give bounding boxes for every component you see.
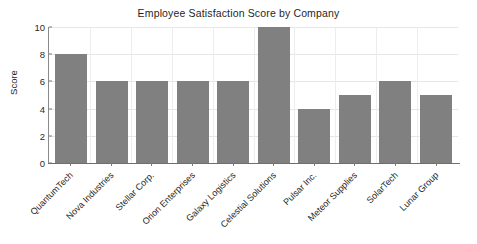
y-tick-label: 10 bbox=[34, 22, 49, 33]
bar[interactable] bbox=[55, 54, 87, 163]
x-axis-tick-labels: QuantumTechNova IndustriesStellar Corp.O… bbox=[48, 167, 458, 243]
bar-slot bbox=[213, 27, 254, 163]
x-tick-mark bbox=[395, 163, 396, 166]
bar[interactable] bbox=[136, 81, 168, 163]
bar-slot bbox=[132, 27, 173, 163]
chart-title: Employee Satisfaction Score by Company bbox=[0, 7, 477, 19]
y-tick-label: 4 bbox=[40, 103, 49, 114]
x-tick-mark bbox=[314, 163, 315, 166]
x-tick-mark bbox=[354, 163, 355, 166]
y-tick-label: 8 bbox=[40, 49, 49, 60]
x-tick-mark bbox=[192, 163, 193, 166]
x-tick-mark bbox=[273, 163, 274, 166]
plot-area: 0246810 bbox=[48, 27, 458, 163]
x-tick-mark bbox=[436, 163, 437, 166]
x-label-slot: Lunar Group bbox=[415, 167, 456, 243]
bar-slot bbox=[335, 27, 376, 163]
bar-slot bbox=[375, 27, 416, 163]
bar-slot bbox=[51, 27, 92, 163]
y-tick-label: 6 bbox=[40, 76, 49, 87]
x-label-slot: Meteor Supplies bbox=[334, 167, 375, 243]
y-axis-title: Score bbox=[1, 0, 25, 165]
bar[interactable] bbox=[420, 95, 452, 163]
x-tick-mark bbox=[233, 163, 234, 166]
x-tick-mark bbox=[151, 163, 152, 166]
bar[interactable] bbox=[258, 27, 290, 163]
bar[interactable] bbox=[339, 95, 371, 163]
bar-slot bbox=[92, 27, 133, 163]
bar[interactable] bbox=[298, 109, 330, 163]
bar[interactable] bbox=[177, 81, 209, 163]
bars-container bbox=[49, 27, 458, 163]
bar-slot bbox=[416, 27, 457, 163]
bar-slot bbox=[294, 27, 335, 163]
y-axis-title-text: Score bbox=[8, 70, 19, 95]
bar-chart-figure: Employee Satisfaction Score by Company S… bbox=[0, 0, 477, 244]
x-tick-mark bbox=[70, 163, 71, 166]
bar[interactable] bbox=[379, 81, 411, 163]
bar[interactable] bbox=[96, 81, 128, 163]
y-tick-label: 2 bbox=[40, 130, 49, 141]
x-tick-mark bbox=[111, 163, 112, 166]
bar-slot bbox=[173, 27, 214, 163]
bar[interactable] bbox=[217, 81, 249, 163]
bar-slot bbox=[254, 27, 295, 163]
